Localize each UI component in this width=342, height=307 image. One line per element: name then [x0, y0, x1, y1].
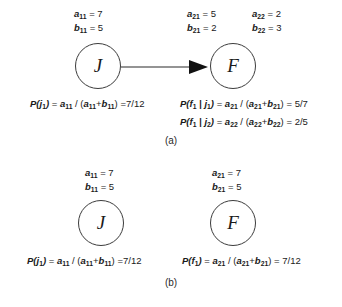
param-a11-b: a11 = 7: [85, 167, 114, 181]
node-f-label: F: [227, 56, 239, 75]
panel-a: a11 = 7 b11 = 5 a21 = 5 b21 = 2 a22 = 2 …: [0, 0, 342, 155]
equation-pf1-given-j1: P(f1 | j1) = a21 / (a21+b21) = 5/7: [180, 97, 308, 112]
node-j-b[interactable]: J: [78, 200, 124, 246]
node-f[interactable]: F: [210, 43, 256, 89]
param-block-f-a-col2: a22 = 2 b22 = 3: [252, 8, 282, 35]
param-b11: b11 = 5: [74, 22, 103, 36]
edge-j-to-f: [120, 56, 212, 78]
equation-pf1-b: P(f1) = a21 / (a21+b21) = 7/12: [182, 254, 301, 269]
param-b22: b22 = 3: [252, 22, 282, 36]
equation-pf1-given-j2: P(f1 | j2) = a22 / (a22+b22) = 2/5: [180, 115, 308, 130]
param-b21: b21 = 2: [187, 22, 217, 36]
equation-pj1-a: P(j1) = a11 / (a11+b11) =7/12: [30, 97, 144, 112]
node-j-b-label: J: [97, 213, 105, 232]
panel-b: a11 = 7 b11 = 5 a21 = 7 b21 = 5 J F P(j1…: [0, 155, 342, 307]
node-j-label: J: [94, 56, 102, 75]
param-a21-b: a21 = 7: [212, 167, 242, 181]
param-b11-b: b11 = 5: [85, 181, 114, 195]
param-a21: a21 = 5: [187, 8, 217, 22]
param-a22: a22 = 2: [252, 8, 282, 22]
caption-b: (b): [0, 277, 342, 288]
caption-a: (a): [0, 135, 342, 146]
param-a11: a11 = 7: [74, 8, 103, 22]
param-block-f-a-col1: a21 = 5 b21 = 2: [187, 8, 217, 35]
node-f-b[interactable]: F: [210, 200, 256, 246]
equation-pj1-b: P(j1) = a11 / (a11+b11) =7/12: [27, 254, 141, 269]
param-block-j-b: a11 = 7 b11 = 5: [85, 167, 114, 194]
node-j[interactable]: J: [75, 43, 121, 89]
param-block-f-b: a21 = 7 b21 = 5: [212, 167, 242, 194]
arrowhead-icon: [189, 60, 208, 74]
param-b21-b: b21 = 5: [212, 181, 242, 195]
node-f-b-label: F: [227, 213, 239, 232]
param-block-j-a: a11 = 7 b11 = 5: [74, 8, 103, 35]
